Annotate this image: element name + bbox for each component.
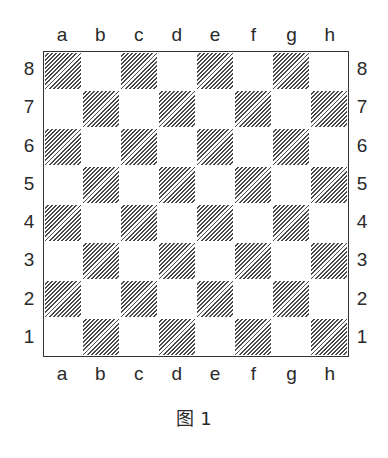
rank-label-1: 1 [352,326,372,348]
rank-label-4: 4 [19,211,39,233]
chessboard [43,51,349,357]
figure-caption: 图 1 [0,404,388,430]
square-c8 [121,53,157,89]
square-a1 [44,318,82,356]
square-d1 [159,319,195,355]
rank-label-5: 5 [352,173,372,195]
square-d7 [159,91,195,127]
square-b6 [82,128,120,166]
square-h6 [310,128,348,166]
square-f5 [235,167,271,203]
square-a3 [44,242,82,280]
square-a5 [44,166,82,204]
file-label-h: h [311,363,349,385]
square-a7 [44,90,82,128]
square-c5 [120,166,158,204]
file-label-e: e [196,24,234,46]
square-e3 [196,242,234,280]
square-d5 [159,167,195,203]
square-a6 [45,129,81,165]
square-g6 [273,129,309,165]
file-label-d: d [158,24,196,46]
file-label-g: g [273,24,311,46]
square-a4 [45,205,81,241]
square-a8 [45,53,81,89]
square-b1 [83,319,119,355]
square-e1 [196,318,234,356]
square-h4 [310,204,348,242]
square-g3 [272,242,310,280]
file-label-e: e [196,363,234,385]
rank-label-6: 6 [19,135,39,157]
square-f1 [235,319,271,355]
square-b3 [83,243,119,279]
square-b4 [82,204,120,242]
square-g7 [272,90,310,128]
file-label-a: a [43,24,81,46]
square-e8 [197,53,233,89]
rank-label-3: 3 [19,249,39,271]
square-h8 [310,52,348,90]
square-d8 [158,52,196,90]
square-e7 [196,90,234,128]
square-e4 [197,205,233,241]
file-label-f: f [234,363,272,385]
rank-label-3: 3 [352,249,372,271]
square-c4 [121,205,157,241]
square-g4 [273,205,309,241]
rank-label-2: 2 [352,288,372,310]
square-f4 [234,204,272,242]
square-f3 [235,243,271,279]
square-e5 [196,166,234,204]
file-label-a: a [43,363,81,385]
square-b7 [83,91,119,127]
square-e6 [197,129,233,165]
rank-label-4: 4 [352,211,372,233]
file-label-d: d [158,363,196,385]
file-label-b: b [81,363,119,385]
square-f7 [235,91,271,127]
rank-label-6: 6 [352,135,372,157]
square-d2 [158,280,196,318]
square-h1 [311,319,347,355]
square-g2 [273,281,309,317]
square-b2 [82,280,120,318]
square-f8 [234,52,272,90]
square-h3 [311,243,347,279]
square-c7 [120,90,158,128]
file-label-h: h [311,24,349,46]
square-f6 [234,128,272,166]
rank-label-2: 2 [19,288,39,310]
file-label-g: g [273,363,311,385]
square-c2 [121,281,157,317]
file-label-c: c [120,24,158,46]
square-g1 [272,318,310,356]
square-g5 [272,166,310,204]
square-d6 [158,128,196,166]
square-c3 [120,242,158,280]
square-d4 [158,204,196,242]
rank-label-5: 5 [19,173,39,195]
square-b8 [82,52,120,90]
rank-label-7: 7 [352,96,372,118]
square-c1 [120,318,158,356]
square-h5 [311,167,347,203]
file-label-f: f [234,24,272,46]
square-d3 [159,243,195,279]
square-g8 [273,53,309,89]
square-c6 [121,129,157,165]
file-label-b: b [81,24,119,46]
square-e2 [197,281,233,317]
square-h7 [311,91,347,127]
square-a2 [45,281,81,317]
square-h2 [310,280,348,318]
rank-label-8: 8 [352,58,372,80]
file-label-c: c [120,363,158,385]
square-f2 [234,280,272,318]
rank-label-8: 8 [19,58,39,80]
rank-label-1: 1 [19,326,39,348]
square-b5 [83,167,119,203]
rank-label-7: 7 [19,96,39,118]
